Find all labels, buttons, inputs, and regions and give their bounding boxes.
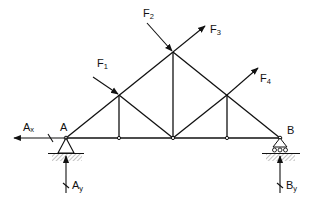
force-f3-arrow — [173, 26, 205, 52]
joint-c — [117, 136, 120, 139]
joint-e — [225, 136, 228, 139]
force-f3-label: F3 — [210, 23, 221, 37]
force-f2-label: F2 — [143, 7, 154, 21]
force-f1-arrow — [93, 77, 118, 94]
force-f1-label: F1 — [97, 57, 108, 71]
diagonal-right — [173, 95, 227, 138]
truss-canvas: F1 F2 F3 F4 Ax Ay By A B — [0, 0, 314, 207]
applied-loads: F1 F2 F3 F4 — [93, 7, 271, 95]
reaction-ax-label: Ax — [23, 121, 34, 134]
joint-b-label: B — [287, 124, 294, 136]
reaction-ay-label: Ay — [72, 179, 83, 193]
truss-diagram: F1 F2 F3 F4 Ax Ay By A B — [0, 0, 314, 207]
roller-support-b — [262, 138, 300, 161]
force-f2-arrow — [147, 23, 172, 51]
force-f4-label: F4 — [260, 72, 271, 86]
force-f4-arrow — [227, 68, 258, 95]
joint-a-label: A — [60, 121, 68, 133]
joint-d — [171, 136, 174, 139]
reaction-by-label: By — [286, 179, 297, 193]
diagonal-left — [119, 95, 173, 138]
